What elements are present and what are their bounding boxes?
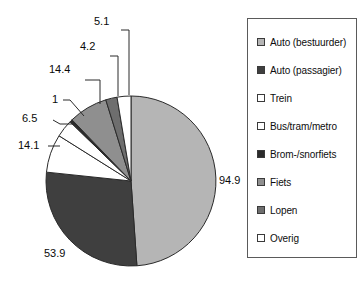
leader-line-fiets [85, 80, 100, 104]
legend-item-label: Auto (passagier) [270, 65, 342, 76]
pie-slice-group [46, 96, 216, 266]
data-label-trein: 14.1 [18, 140, 39, 151]
legend-item[interactable]: Overig [257, 224, 356, 252]
data-label-bustrammetro: 6.5 [22, 113, 37, 124]
data-label-auto-passagier: 53.9 [44, 248, 65, 259]
chart-legend: Auto (bestuurder)Auto (passagier)TreinBu… [247, 18, 357, 258]
legend-item-label: Bus/tram/metro [270, 121, 337, 132]
pie-slice[interactable] [131, 96, 216, 266]
data-label-auto-bestuurder: 94.9 [219, 175, 240, 186]
legend-item[interactable]: Trein [257, 84, 356, 112]
data-label-overig: 5.1 [94, 16, 109, 27]
legend-item[interactable]: Bus/tram/metro [257, 112, 356, 140]
legend-item-label: Lopen [270, 205, 297, 216]
data-label-bromsnorfiets: 1 [52, 94, 58, 105]
legend-item[interactable]: Auto (bestuurder) [257, 28, 356, 56]
legend-item-label: Overig [270, 233, 299, 244]
legend-swatch-icon [257, 234, 265, 242]
legend-swatch-icon [257, 66, 265, 74]
data-label-fiets: 14.4 [49, 64, 70, 75]
legend-swatch-icon [257, 94, 265, 102]
legend-swatch-icon [257, 206, 265, 214]
leader-line-overig [121, 30, 129, 95]
legend-item-label: Brom-/snorfiets [270, 149, 336, 160]
legend-item-label: Auto (bestuurder) [270, 37, 346, 48]
legend-item[interactable]: Brom-/snorfiets [257, 140, 356, 168]
legend-item-label: Fiets [270, 177, 291, 188]
legend-swatch-icon [257, 178, 265, 186]
legend-swatch-icon [257, 122, 265, 130]
legend-item-label: Trein [270, 93, 292, 104]
legend-item[interactable]: Lopen [257, 196, 356, 224]
legend-swatch-icon [257, 38, 265, 46]
legend-item[interactable]: Auto (passagier) [257, 56, 356, 84]
pie-chart-figure: 94.9 53.9 14.1 6.5 1 14.4 4.2 5.1 Auto (… [0, 0, 363, 286]
leader-line-lopen [110, 56, 118, 96]
legend-swatch-icon [257, 150, 265, 158]
legend-item[interactable]: Fiets [257, 168, 356, 196]
data-label-lopen: 4.2 [80, 41, 95, 52]
